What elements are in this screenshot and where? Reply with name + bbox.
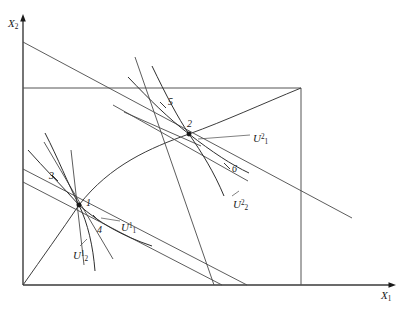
steep-line-equilibrium-1 xyxy=(44,142,113,259)
edgeworth-box-outline xyxy=(23,88,301,285)
axes-group xyxy=(20,14,396,288)
x-axis-arrowhead xyxy=(389,282,397,288)
equilibrium-point-2 xyxy=(187,132,192,137)
point-label-3: 3 xyxy=(49,171,54,181)
indifference-curve-u2-2 xyxy=(152,66,224,196)
contract-curve xyxy=(23,88,301,285)
point-label-2: 2 xyxy=(187,119,192,129)
edgeworth-box-figure: X2 X1 U21 U22 U11 U12 1 2 3 4 5 6 xyxy=(0,0,409,309)
curve-label-u1-1: U11 xyxy=(121,222,136,235)
point-label-5: 5 xyxy=(168,97,173,107)
leader-line-u1-1 xyxy=(101,218,120,221)
y-axis-label: X2 xyxy=(8,18,18,31)
equilibrium-point-1 xyxy=(77,203,82,208)
point-label-6: 6 xyxy=(232,164,237,174)
curve-label-u1-2: U21 xyxy=(253,133,268,146)
curve-label-u2-2: U22 xyxy=(233,199,248,212)
leader-line-u1-2 xyxy=(198,135,250,139)
diagram-canvas xyxy=(0,0,409,309)
y-axis-arrowhead xyxy=(20,14,26,22)
point-label-4: 4 xyxy=(97,225,102,235)
leader-line-u2-2 xyxy=(232,191,239,196)
curve-label-u2-1: U12 xyxy=(73,250,88,263)
point-label-1: 1 xyxy=(86,198,91,208)
x-axis-label: X1 xyxy=(381,290,391,303)
price-line-through-point2-extended xyxy=(135,57,214,285)
tick-mark-point-5 xyxy=(160,102,166,108)
